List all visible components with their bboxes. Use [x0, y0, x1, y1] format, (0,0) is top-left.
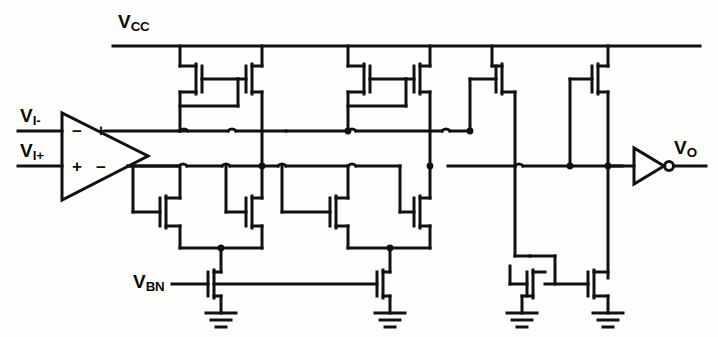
vcc-label: VCC — [118, 12, 150, 31]
ground-symbol-1 — [206, 313, 236, 327]
ground-symbol-3 — [507, 313, 537, 327]
nmos-n3 — [282, 166, 348, 248]
nmos-bias-m2 — [377, 270, 390, 313]
nmos-n4 — [400, 166, 430, 248]
junction-dots — [218, 128, 612, 252]
nmos-stage1-tail-wire — [180, 248, 262, 272]
pmos-m5-output-stage — [470, 46, 515, 166]
pmos-m3-diode-connected — [348, 46, 406, 131]
vin-minus-label: VI- — [20, 106, 40, 125]
amp-input-plus-sign-inner: + — [96, 122, 106, 139]
wire-hop-lower-5 — [515, 164, 523, 166]
nmos-stage2-tail-wire — [348, 248, 430, 272]
wire-hop-upper-3 — [442, 129, 450, 131]
ground-symbol-2 — [375, 313, 405, 327]
circuit-schematic-canvas — [0, 0, 718, 337]
nmos-n5-diode-connected — [510, 166, 555, 313]
amp-input-minus-sign-inner: − — [96, 159, 106, 176]
ground-symbol-4 — [593, 313, 623, 327]
amp-input-minus-sign: − — [72, 123, 82, 140]
wire-hop-upper-1 — [228, 129, 236, 131]
wire-hop-lower-1 — [179, 164, 187, 166]
pmos-m1-diode-connected — [180, 46, 238, 131]
vout-label: VO — [674, 138, 697, 157]
output-inverter — [634, 148, 674, 184]
nmos-n1 — [133, 166, 180, 248]
nmos-bias-m1 — [208, 270, 221, 313]
pmos-m2-mirror-output — [238, 46, 262, 166]
vin-plus-label: VI+ — [20, 141, 44, 160]
amp-input-plus-sign: + — [72, 158, 82, 175]
pmos-m6-output-stage — [570, 46, 608, 278]
vbn-label: VBN — [133, 272, 165, 291]
wire-hop-lower-4 — [348, 164, 356, 166]
pmos-m4-mirror-output — [406, 46, 430, 166]
nmos-n2 — [226, 166, 262, 248]
schematic-figure: VCC VI- VI+ VBN VO − + + − — [0, 0, 718, 337]
